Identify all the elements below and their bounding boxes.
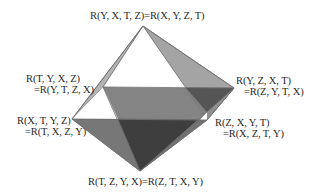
vertex-label-back-left: R(T, Y, X, Z) =R(Y, T, Z, X) <box>26 73 94 95</box>
vertex-label-top: R(Y, X, T, Z)=R(X, Y, Z, T) <box>90 10 204 21</box>
vertex-label-right-front: R(Z, X, Y, T) =R(X, Z, T, Y) <box>215 117 284 139</box>
vertex-label-right-back-line-2: =R(Z, Y, T, X) <box>236 86 304 97</box>
vertex-label-right-front-line-1: R(Z, X, Y, T) <box>215 117 284 128</box>
vertex-label-left-line-1: R(X, T, Y, Z) <box>17 115 86 126</box>
vertex-label-left-line-2: =R(T, X, Z, Y) <box>17 126 86 137</box>
vertex-label-left: R(X, T, Y, Z) =R(T, X, Z, Y) <box>17 115 86 137</box>
vertex-label-bottom-line-1: R(T, Z, Y, X)=R(Z, T, X, Y) <box>88 176 203 187</box>
vertex-label-right-back-line-1: R(Y, Z, X, T) <box>236 75 304 86</box>
vertex-label-top-line-1: R(Y, X, T, Z)=R(X, Y, Z, T) <box>90 10 204 21</box>
vertex-label-bottom: R(T, Z, Y, X)=R(Z, T, X, Y) <box>88 176 203 187</box>
vertex-label-back-left-line-2: =R(Y, T, Z, X) <box>26 84 94 95</box>
octahedron-diagram: R(Y, X, T, Z)=R(X, Y, Z, T) R(T, Y, X, Z… <box>0 0 314 193</box>
vertex-label-right-back: R(Y, Z, X, T) =R(Z, Y, T, X) <box>236 75 304 97</box>
vertex-label-right-front-line-2: =R(X, Z, T, Y) <box>215 128 284 139</box>
vertex-label-back-left-line-1: R(T, Y, X, Z) <box>26 73 94 84</box>
